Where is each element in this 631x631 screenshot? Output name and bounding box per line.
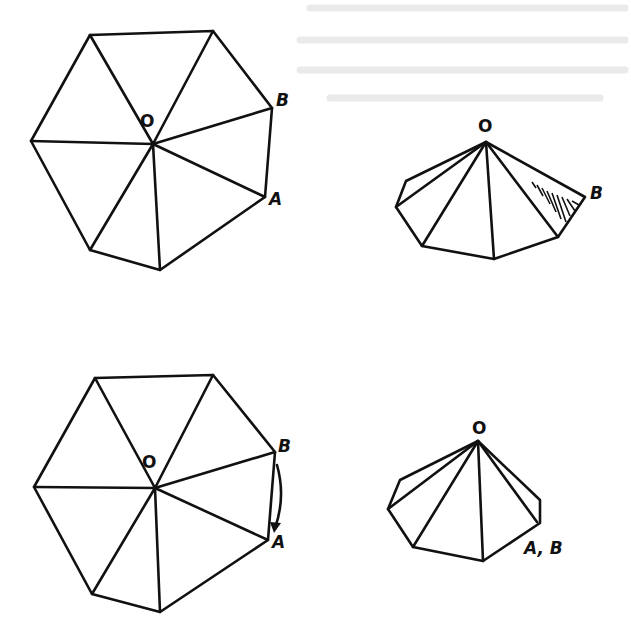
bleed-through-text [300,8,625,98]
label-b-top: B [276,90,289,110]
label-b-bottom: B [278,436,291,456]
label-o-top: O [140,111,154,131]
flat-polygon-bottom [34,375,275,612]
figure-canvas: O B A O B O [0,0,631,631]
cone-bottom [388,441,540,561]
label-ab-cone-bottom: A, B [522,538,563,558]
center-point [151,142,156,147]
flat-polygon-top [31,31,272,270]
label-b-cone-top: B [590,183,603,203]
label-o-cone-bottom: O [472,418,486,438]
label-o-bottom: O [142,452,156,472]
center-point [153,486,158,491]
label-a-top: A [267,189,282,209]
label-o-cone-top: O [478,116,492,136]
cone-top [396,142,585,259]
label-a-bottom: A [270,532,285,552]
